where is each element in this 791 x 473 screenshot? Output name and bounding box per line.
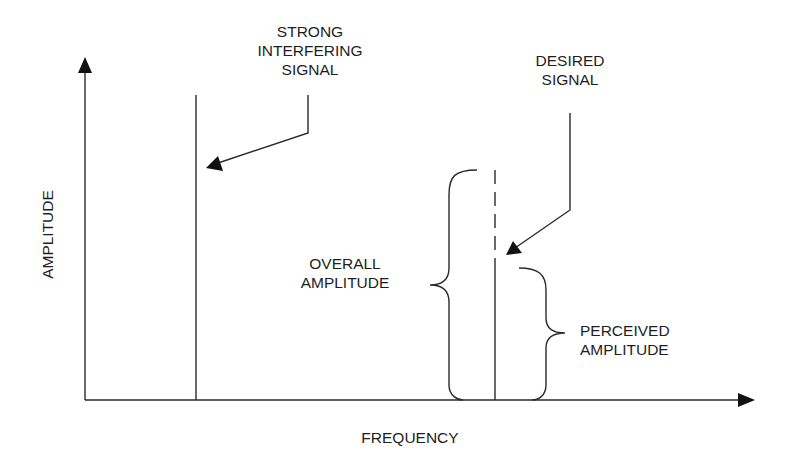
desired-leader xyxy=(515,113,570,248)
perceived-amplitude-brace xyxy=(519,268,565,400)
desired-signal-label: DESIRED SIGNAL xyxy=(520,51,620,89)
interfering-signal-label: STRONG INTERFERING SIGNAL xyxy=(245,22,375,79)
y-axis-label: AMPLITUDE xyxy=(38,180,57,290)
x-axis-label: FREQUENCY xyxy=(340,428,480,447)
interfering-arrow-icon xyxy=(206,156,223,171)
perceived-amplitude-label: PERCEIVED AMPLITUDE xyxy=(580,321,700,359)
y-axis-arrow-icon xyxy=(78,57,92,73)
interfering-leader xyxy=(215,95,308,164)
overall-amplitude-label: OVERALL AMPLITUDE xyxy=(290,254,400,292)
desired-arrow-icon xyxy=(506,241,522,255)
overall-amplitude-brace xyxy=(430,170,477,400)
diagram-canvas xyxy=(0,0,791,473)
x-axis-arrow-icon xyxy=(738,393,755,407)
